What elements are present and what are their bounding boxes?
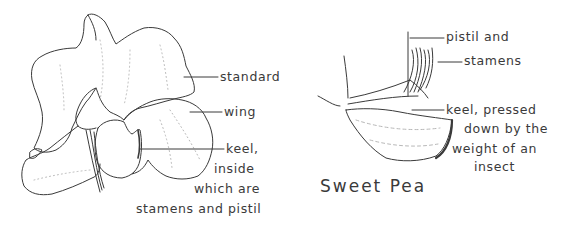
label-right-keel-line4: insect [474, 160, 515, 173]
label-right-keel-line2: down by the [464, 122, 548, 135]
label-stamens: stamens [464, 54, 522, 67]
right-keel-petal [346, 109, 452, 161]
label-keel-line4: stamens and pistil [136, 202, 261, 215]
right-flower-drawing [318, 32, 462, 161]
lower-petal [76, 88, 96, 129]
label-right-keel-line1: keel, pressed [446, 103, 537, 116]
figure-title: Sweet Pea [320, 176, 426, 196]
keel-petal [95, 120, 142, 178]
label-keel-line2: inside [214, 162, 255, 175]
label-right-keel-line3: weight of an [452, 142, 537, 155]
label-pistil-and: pistil and [446, 30, 509, 43]
label-standard: standard [220, 70, 280, 83]
standard-petal [31, 14, 194, 152]
label-keel-line3: which are [194, 182, 260, 195]
left-flower-drawing [22, 14, 224, 195]
label-keel-line1: keel, [226, 142, 259, 155]
label-wing: wing [224, 105, 256, 118]
